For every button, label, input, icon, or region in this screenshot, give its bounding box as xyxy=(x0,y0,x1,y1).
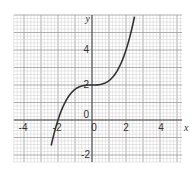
y-tick-neg2: -2 xyxy=(81,149,90,160)
cubic-graph: y x -4 -2 0 2 4 -2 0 2 4 xyxy=(0,0,196,169)
y-tick-2: 2 xyxy=(83,79,89,90)
y-tick-4: 4 xyxy=(83,44,89,55)
y-axis-label: y xyxy=(85,13,91,24)
x-tick-neg4: -4 xyxy=(19,122,28,133)
x-tick-neg2: -2 xyxy=(53,122,62,133)
y-tick-0: 0 xyxy=(83,109,89,120)
x-axis-label: x xyxy=(183,122,189,133)
x-tick-0: 0 xyxy=(91,122,97,133)
x-tick-2: 2 xyxy=(123,122,129,133)
x-tick-4: 4 xyxy=(158,122,164,133)
grid xyxy=(14,15,182,162)
